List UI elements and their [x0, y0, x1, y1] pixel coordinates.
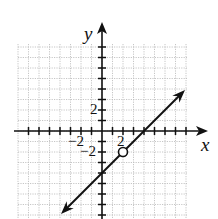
- y-axis-label: y: [84, 24, 92, 43]
- y-tick-label-neg2: −2: [80, 144, 96, 159]
- x-tick-label-2: 2: [117, 134, 125, 149]
- coordinate-plane: [0, 0, 218, 219]
- y-tick-label-2: 2: [90, 102, 98, 117]
- x-axis-label: x: [201, 135, 209, 154]
